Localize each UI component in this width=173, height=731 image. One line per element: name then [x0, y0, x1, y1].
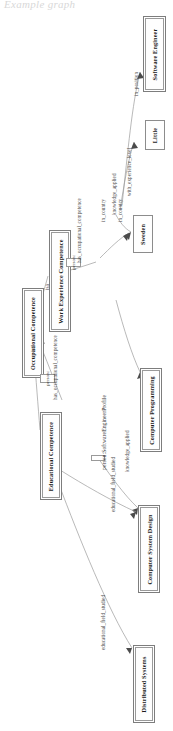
node-label: Computer System Design [146, 514, 153, 584]
node-little[interactable]: Little [145, 120, 165, 150]
diagram-canvas: Example graph [0, 0, 173, 731]
page-header-text: Example graph [4, 0, 75, 10]
node-label: Sweden [140, 223, 147, 244]
node-label: Little [152, 127, 159, 142]
instance-node-label: person: [45, 371, 50, 386]
node-label: Occupational Competence [30, 296, 37, 369]
node-occupational-competence[interactable]: Occupational Competence [22, 288, 44, 378]
node-label: Computer Programming [148, 376, 155, 445]
node-label: Educational Competence [48, 421, 55, 490]
edge-label-knowledge-applied-2: knowledge_applied [124, 430, 130, 472]
node-work-experience-competence[interactable]: Work Experience Competence [49, 230, 71, 332]
edge-label-educational-field-studied-2: educational_field_studied [100, 595, 106, 650]
edge-label-in-country-2: in_country [100, 199, 106, 222]
node-computer-programming[interactable]: Computer Programming [140, 368, 162, 452]
node-label: Software Engineer [151, 28, 158, 80]
edge-label-knowledge-applied-1: knowledge_applied [111, 173, 117, 215]
edge-label-has-occupational-competence-2: has_occupational_competence [52, 335, 58, 400]
node-distributed-systems[interactable]: Distributed Systems [133, 645, 155, 723]
node-computer-system-design[interactable]: Computer System Design [138, 505, 160, 593]
edge-label-isa-1: isa [44, 284, 50, 290]
node-educational-competence[interactable]: Educational Competence [40, 412, 62, 500]
edge-label-in-country-1: in_country [117, 199, 123, 222]
edge-label-in-position: in_position [133, 72, 139, 96]
instance-label-person-profile: person:SoftwareEngineerProfile [101, 395, 107, 470]
edge-label-has-occupational-competence-1: has_occupational_competence [76, 198, 82, 263]
node-software-engineer[interactable]: Software Engineer [143, 16, 166, 92]
edge-label-with-experience-level: with_experience_level [126, 148, 132, 196]
node-label: Distributed Systems [141, 656, 148, 712]
node-sweden[interactable]: Sweden [133, 215, 153, 253]
edge-label-isa-2: isa [30, 346, 36, 352]
edge-label-educational-field-studied-1: educational_field_studied [110, 457, 116, 512]
node-label: Work Experience Competence [57, 239, 64, 323]
